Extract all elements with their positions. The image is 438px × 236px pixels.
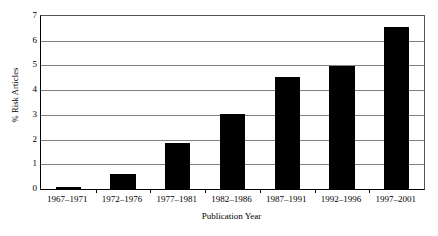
bar (56, 187, 81, 189)
y-axis-tick-label: 4 (33, 85, 38, 94)
y-axis-tick-label: 1 (33, 159, 38, 168)
y-axis-tick-label: 7 (33, 11, 38, 20)
y-axis-tick-label: 0 (33, 184, 38, 193)
x-axis-title: Publication Year (40, 211, 423, 222)
x-axis-tick-label: 1972–1976 (102, 193, 143, 205)
plot-area (40, 15, 425, 190)
bar (110, 174, 135, 189)
x-axis-tick-labels: 1967–19711972–19761977–19811982–19861987… (40, 193, 423, 207)
y-axis-tick-label: 3 (33, 109, 38, 118)
bar-chart-figure: % Risk Articles 01234567 1967–19711972–1… (0, 0, 438, 236)
bars-group (41, 16, 424, 189)
y-axis-tick-labels: 01234567 (22, 0, 37, 236)
y-axis-tick-label: 2 (33, 134, 38, 143)
bar (275, 77, 300, 189)
x-axis-tick-label: 1977–1981 (157, 193, 198, 205)
bar (220, 114, 245, 189)
x-axis-tick-label: 1987–1991 (266, 193, 307, 205)
y-axis-title-label: % Risk Articles (10, 68, 20, 123)
bar (384, 27, 409, 189)
y-axis-tick-label: 5 (33, 60, 38, 69)
y-axis-tick-label: 6 (33, 35, 38, 44)
bar (165, 143, 190, 189)
bar (329, 66, 354, 189)
x-axis-tick-label: 1992–1996 (321, 193, 362, 205)
x-axis-tick-label: 1982–1986 (211, 193, 252, 205)
x-axis-title-label: Publication Year (202, 211, 262, 221)
x-axis-tick-label: 1967–1971 (47, 193, 88, 205)
x-axis-tick-label: 1997–2001 (375, 193, 416, 205)
